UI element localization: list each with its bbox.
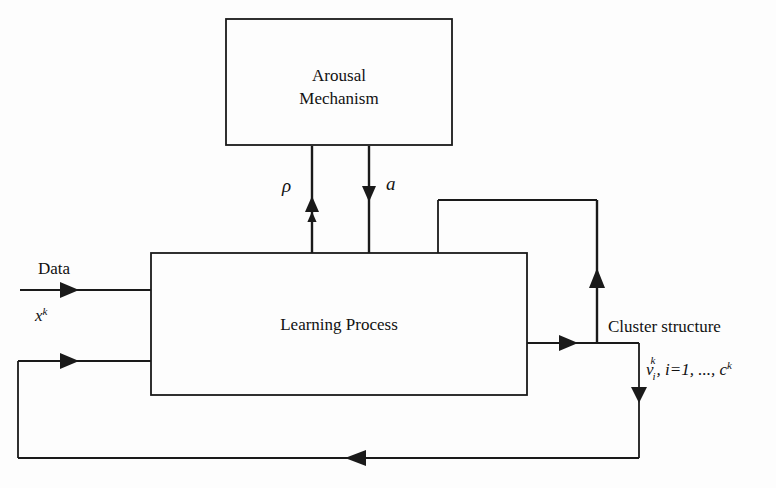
cluster-variable-label: vik, i=1, ..., ck — [646, 354, 733, 382]
feedback-input-arrowhead — [60, 353, 79, 369]
rho-arrowhead-up — [305, 196, 319, 212]
learning-process-label: Learning Process — [280, 315, 398, 334]
cluster-structure-label: Cluster structure — [608, 317, 721, 336]
diagram-svg: Arousal Mechanism Learning Process ρ a D… — [0, 0, 776, 488]
arousal-mechanism-label-line2: Mechanism — [299, 89, 378, 108]
data-label: Data — [38, 259, 71, 278]
data-variable-label: xk — [34, 305, 49, 325]
rho-label: ρ — [281, 175, 291, 196]
top-feedback-arrowhead-up — [589, 268, 605, 288]
data-variable-superscript: k — [43, 305, 49, 317]
cluster-variable-subscript: i — [653, 370, 656, 382]
bottom-feedback-arrowhead-left — [345, 450, 366, 466]
a-label: a — [386, 173, 396, 194]
data-input-arrowhead — [60, 282, 79, 298]
bottom-feedback-arrowhead-down — [631, 387, 647, 403]
output-arrowhead — [559, 335, 578, 351]
cluster-variable-range-superscript: k — [727, 359, 733, 371]
a-arrowhead-down — [362, 186, 376, 202]
cluster-variable-range: , i=1, ..., c — [657, 360, 728, 379]
diagram-canvas: Arousal Mechanism Learning Process ρ a D… — [0, 0, 776, 488]
arousal-mechanism-label-line1: Arousal — [312, 66, 366, 85]
